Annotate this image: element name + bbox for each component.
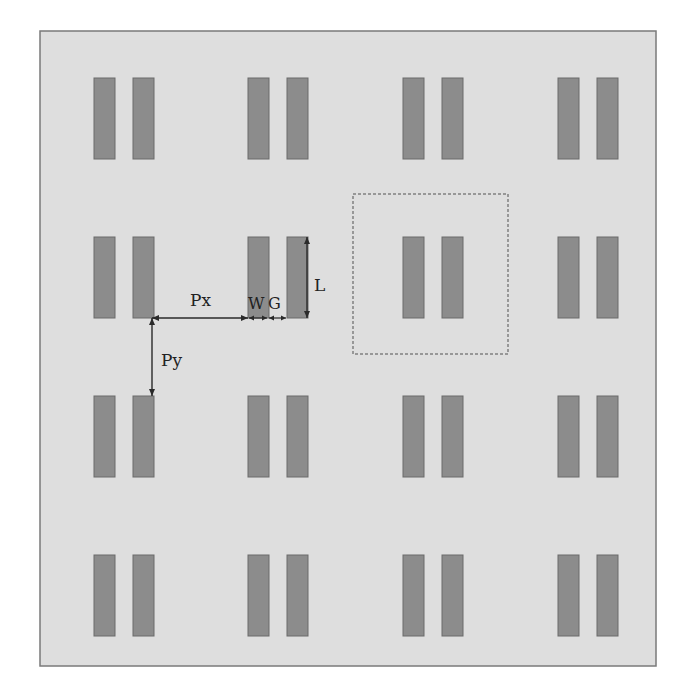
strip-left [558,78,579,159]
metasurface-diagram: Px W G L Py [0,0,692,697]
strip-right [133,78,154,159]
strip-left [94,555,115,636]
strip-left [403,78,424,159]
strip-right [133,396,154,477]
l-label: L [314,275,325,295]
strip-right [442,555,463,636]
strip-left [403,396,424,477]
strip-left [403,555,424,636]
strip-left [94,78,115,159]
g-label: G [268,294,281,313]
px-label: Px [190,290,211,310]
strip-left [94,396,115,477]
strip-left [558,396,579,477]
strip-right [133,555,154,636]
strip-right [597,396,618,477]
w-label: W [248,294,265,313]
strip-right [287,396,308,477]
strip-left [248,555,269,636]
strip-left [248,78,269,159]
strip-right [287,237,308,318]
strip-right [442,237,463,318]
strip-left [403,237,424,318]
strip-right [287,78,308,159]
strip-left [94,237,115,318]
strip-right [442,396,463,477]
strip-right [597,78,618,159]
strip-right [442,78,463,159]
strip-right [597,555,618,636]
py-label: Py [161,350,182,370]
strip-right [287,555,308,636]
strip-left [558,237,579,318]
strip-right [597,237,618,318]
strip-left [558,555,579,636]
strip-left [248,396,269,477]
strip-right [133,237,154,318]
